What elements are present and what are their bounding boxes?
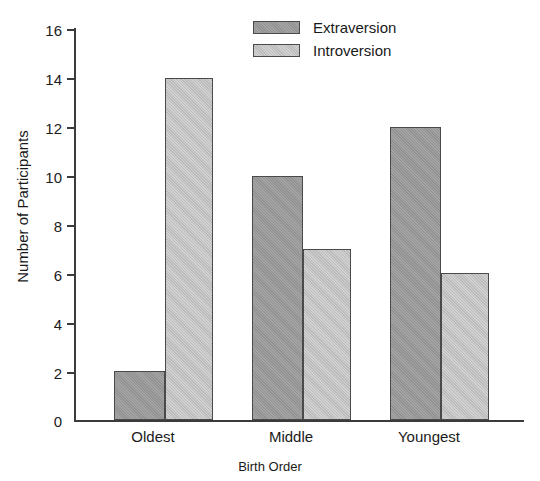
bar-oldest-extraversion	[114, 371, 165, 420]
y-axis-tick-labels: 16 14 12 10 8 6 4 2 0	[22, 0, 62, 481]
bar-middle-introversion	[303, 249, 351, 420]
y-tick-label-10: 10	[26, 170, 62, 185]
x-axis-label-middle: Middle	[231, 428, 351, 445]
y-tick-label-0: 0	[26, 414, 62, 429]
y-tick-label-16: 16	[26, 23, 62, 38]
y-tick-label-4: 4	[26, 317, 62, 332]
x-axis-line	[74, 420, 524, 422]
legend-entry-introversion: Introversion	[253, 39, 443, 62]
introversion-swatch-icon	[253, 44, 300, 57]
x-axis-title: Birth Order	[0, 459, 540, 474]
bar-oldest-introversion	[165, 78, 213, 420]
x-axis-label-oldest: Oldest	[93, 428, 213, 445]
legend-label-extraversion: Extraversion	[313, 19, 396, 36]
bar-chart-figure: Number of Participants 16 14 12 10 8 6 4…	[0, 0, 540, 481]
y-tick-label-8: 8	[26, 219, 62, 234]
chart-legend: Extraversion Introversion	[253, 16, 443, 62]
legend-entry-extraversion: Extraversion	[253, 16, 443, 39]
plot-area	[75, 29, 523, 420]
y-tick-label-2: 2	[26, 366, 62, 381]
y-tick-label-6: 6	[26, 268, 62, 283]
bar-youngest-extraversion	[390, 127, 441, 420]
extraversion-swatch-icon	[253, 21, 300, 34]
bar-youngest-introversion	[441, 273, 489, 420]
bar-middle-extraversion	[252, 176, 303, 420]
y-tick-label-14: 14	[26, 72, 62, 87]
y-tick-label-12: 12	[26, 121, 62, 136]
x-axis-label-youngest: Youngest	[369, 428, 489, 445]
legend-label-introversion: Introversion	[313, 42, 391, 59]
